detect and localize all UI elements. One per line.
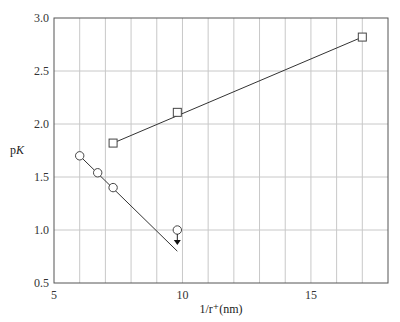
x-axis-ticks: 51015 <box>51 288 317 302</box>
data-series <box>75 33 366 251</box>
gridlines <box>54 18 388 283</box>
y-tick-label: 0.5 <box>34 276 49 290</box>
plot-frame <box>54 18 388 283</box>
chart: 0.51.01.52.02.53.0 51015 pK 1/r⁺(nm) <box>0 0 400 322</box>
down-arrow-icon <box>174 240 181 245</box>
y-tick-label: 2.5 <box>34 64 49 78</box>
series-squares <box>109 33 366 147</box>
circle-marker <box>109 183 117 191</box>
y-tick-label: 1.0 <box>34 223 49 237</box>
square-marker <box>109 139 117 147</box>
series-circles <box>75 152 181 252</box>
square-marker <box>173 108 181 116</box>
y-axis-ticks: 0.51.01.52.02.53.0 <box>34 11 49 290</box>
fit-line <box>113 37 362 143</box>
y-tick-label: 1.5 <box>34 170 49 184</box>
circle-marker <box>173 226 181 234</box>
square-marker <box>358 33 366 41</box>
x-tick-label: 5 <box>51 288 57 302</box>
x-axis-label: 1/r⁺(nm) <box>200 302 243 316</box>
y-tick-label: 2.0 <box>34 117 49 131</box>
circle-marker <box>75 152 83 160</box>
y-axis-label: pK <box>10 143 25 157</box>
y-tick-label: 3.0 <box>34 11 49 25</box>
circle-marker <box>93 169 101 177</box>
x-tick-label: 10 <box>176 288 188 302</box>
x-tick-label: 15 <box>305 288 317 302</box>
